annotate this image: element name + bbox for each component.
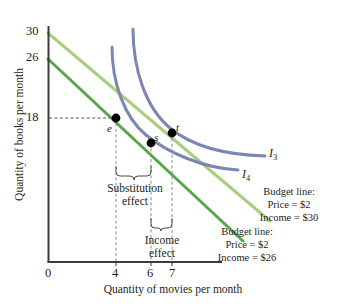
- point-label-t: t: [176, 121, 179, 133]
- budget-note-26-line1: Budget line:: [198, 226, 296, 239]
- indifference-curve-i3: [133, 29, 265, 156]
- budget-note-income-26: Budget line: Price = $2 Income = $26: [198, 226, 296, 264]
- x-tick-label-7: 7: [169, 266, 175, 280]
- budget-note-income-30: Budget line: Price = $2 Income = $30: [240, 186, 338, 224]
- substitution-effect-line2: effect: [87, 195, 183, 208]
- x-axis-title: Quantity of movies per month: [78, 283, 268, 296]
- substitution-effect-brace: [116, 166, 151, 180]
- budget-note-30-line3: Income = $30: [240, 212, 338, 225]
- curve-label-i3-subscript: 3: [273, 152, 277, 162]
- y-axis-title: Quantity of books per month: [13, 54, 26, 214]
- substitution-effect-label: Substitution effect: [87, 182, 183, 208]
- x-tick-label-4: 4: [112, 266, 118, 280]
- curve-label-i4-subscript: 4: [246, 173, 250, 183]
- x-tick-label-0: 0: [45, 266, 51, 280]
- indifference-curve-figure: Quantity of books per month Quantity of …: [0, 0, 339, 305]
- budget-note-26-line2: Price = $2: [198, 239, 296, 252]
- curve-label-i3: I3: [269, 147, 277, 163]
- budget-note-26-line3: Income = $26: [198, 252, 296, 265]
- curve-label-i4: I4: [242, 168, 250, 184]
- income-effect-brace: [151, 218, 172, 231]
- y-tick-label-26: 26: [26, 50, 39, 64]
- substitution-effect-line1: Substitution: [87, 182, 183, 195]
- x-tick-label-6: 6: [147, 266, 153, 280]
- income-effect-line2: effect: [128, 247, 196, 260]
- point-label-s: s: [154, 131, 158, 143]
- y-tick-label-18: 18: [26, 110, 39, 124]
- budget-note-30-line1: Budget line:: [240, 186, 338, 199]
- budget-note-30-line2: Price = $2: [240, 199, 338, 212]
- data-point-e: [112, 114, 121, 123]
- income-effect-label: Income effect: [128, 234, 196, 260]
- point-label-e: e: [107, 122, 112, 134]
- y-tick-label-30: 30: [26, 24, 39, 38]
- income-effect-line1: Income: [128, 234, 196, 247]
